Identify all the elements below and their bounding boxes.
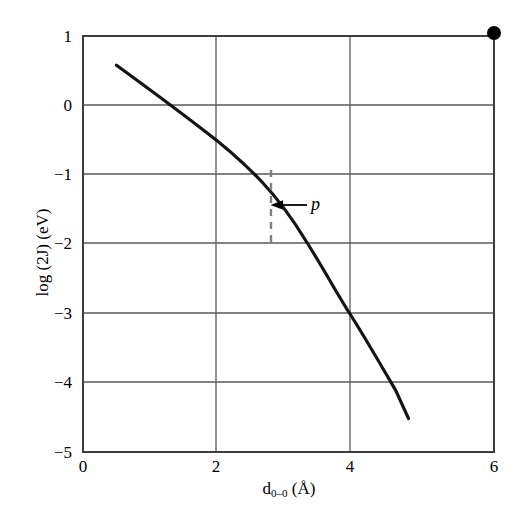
annotation-label-p: p: [311, 195, 320, 213]
y-axis-tick-1: 1: [46, 28, 72, 45]
arrow-head: [271, 200, 284, 210]
y-axis-tick-minus-5: −5: [42, 444, 72, 461]
horizontal-gridlines: [83, 105, 494, 382]
corner-dot-marker: [487, 26, 501, 40]
x-axis-title-subscript: 0–0: [271, 487, 288, 499]
annotation-arrow: [271, 200, 308, 210]
y-axis-tick-minus-4: −4: [42, 374, 72, 391]
data-curve: [117, 65, 409, 418]
chart-canvas: [0, 0, 518, 522]
vertical-gridlines: [216, 36, 350, 452]
x-axis-title-symbol: d: [263, 479, 272, 498]
x-axis-title: d0–0 (Å): [263, 480, 316, 499]
y-axis-title: log (2J) (eV): [34, 163, 51, 343]
y-axis-tick-0: 0: [46, 97, 72, 114]
x-axis-title-unit: (Å): [292, 479, 316, 498]
plot-frame: [83, 36, 494, 452]
x-axis-tick-0: 0: [79, 458, 88, 475]
x-axis-tick-2: 2: [212, 458, 221, 475]
figure-container: 1 0 −1 −2 −3 −4 −5 0 2 4 6 log (2J) (eV)…: [0, 0, 518, 522]
x-axis-tick-4: 4: [346, 458, 355, 475]
x-axis-tick-6: 6: [490, 458, 499, 475]
